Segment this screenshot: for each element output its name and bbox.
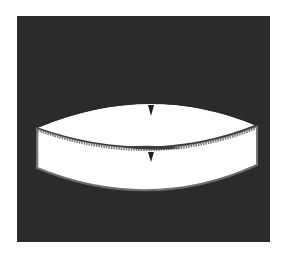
- diagram-figure: [0, 0, 284, 255]
